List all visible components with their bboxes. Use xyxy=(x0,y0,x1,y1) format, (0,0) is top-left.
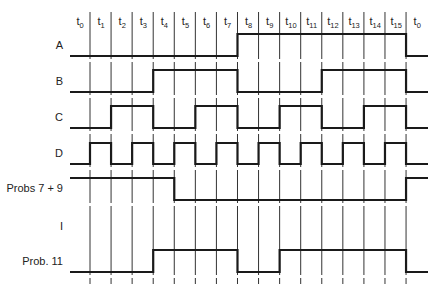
signal-label-prob-11: Prob. 11 xyxy=(22,255,63,267)
time-slot-label: t9 xyxy=(266,15,273,30)
time-slot-label: t0 xyxy=(414,15,421,30)
waveform-d xyxy=(70,143,428,164)
signal-label-probs-7-9: Probs 7 + 9 xyxy=(6,182,63,194)
time-slot-label: t3 xyxy=(140,15,147,30)
time-slot-label: t13 xyxy=(348,15,359,30)
waveform-b xyxy=(70,70,428,92)
signal-label-i: I xyxy=(60,220,63,232)
waveform-c xyxy=(70,106,428,128)
time-slot-label: t0 xyxy=(76,15,83,30)
time-slot-label: t2 xyxy=(119,15,126,30)
waveform-prob-11 xyxy=(70,250,428,272)
time-slot-header: t0t1t2t3t4t5t6t7t8t9t10t11t12t13t14t15t0 xyxy=(76,15,420,30)
time-slot-label: t15 xyxy=(391,15,402,30)
signal-label-a: A xyxy=(56,39,64,51)
waveform-probs-7-9 xyxy=(70,178,428,200)
signal-label-c: C xyxy=(55,111,63,123)
time-slot-label: t7 xyxy=(224,15,231,30)
signal-labels: ABCDProbs 7 + 9IProb. 11 xyxy=(6,39,63,267)
time-slot-label: t5 xyxy=(182,15,189,30)
signal-waveforms xyxy=(70,34,428,272)
time-grid xyxy=(90,12,406,284)
time-slot-label: t8 xyxy=(245,15,252,30)
timing-diagram: t0t1t2t3t4t5t6t7t8t9t10t11t12t13t14t15t0… xyxy=(0,0,441,298)
time-slot-label: t6 xyxy=(203,15,210,30)
waveform-a xyxy=(70,34,428,56)
time-slot-label: t12 xyxy=(327,15,338,30)
time-slot-label: t10 xyxy=(285,15,296,30)
signal-label-d: D xyxy=(55,147,63,159)
signal-label-b: B xyxy=(56,75,63,87)
time-slot-label: t11 xyxy=(306,15,317,30)
time-slot-label: t1 xyxy=(98,15,105,30)
time-slot-label: t14 xyxy=(369,15,380,30)
time-slot-label: t4 xyxy=(161,15,168,30)
